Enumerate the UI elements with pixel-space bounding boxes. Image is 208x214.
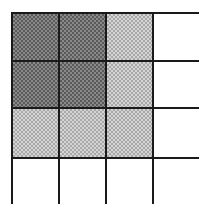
grid-cell-white [152, 60, 199, 107]
square-grid [11, 12, 199, 204]
grid-cell-light [105, 12, 152, 60]
grid-cell-white [58, 157, 105, 204]
grid-cell-white [152, 12, 199, 60]
diagram-canvas [0, 0, 208, 214]
grid-cell-dark [58, 60, 105, 107]
grid-cell-white [105, 157, 152, 204]
grid-cell-light [105, 107, 152, 157]
grid-cell-white [152, 107, 199, 157]
grid-cell-white [11, 157, 58, 204]
grid-cell-light [11, 107, 58, 157]
grid-cell-light [58, 107, 105, 157]
grid-cell-dark [11, 60, 58, 107]
grid-cell-dark [58, 12, 105, 60]
grid-cell-light [105, 60, 152, 107]
grid-cell-white [152, 157, 199, 204]
grid-cell-dark [11, 12, 58, 60]
